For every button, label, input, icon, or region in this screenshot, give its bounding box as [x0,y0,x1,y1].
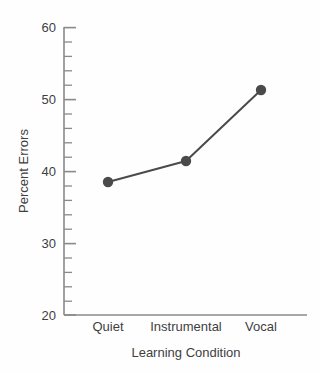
y-tick-label-40: 40 [42,164,56,179]
chart-canvas: 60 50 40 30 20 Quiet Instrumental Vocal … [0,0,320,372]
x-category-label-quiet: Quiet [92,319,123,334]
data-point-quiet[interactable] [103,177,113,187]
data-line-percent-errors [108,90,261,182]
x-category-label-instrumental: Instrumental [150,319,222,334]
y-tick-label-30: 30 [42,236,56,251]
data-point-vocal[interactable] [256,85,266,95]
y-tick-label-20: 20 [42,308,56,323]
x-axis-title: Learning Condition [131,345,240,360]
x-category-label-vocal: Vocal [245,319,277,334]
y-tick-label-60: 60 [42,20,56,35]
line-chart-figure: 60 50 40 30 20 Quiet Instrumental Vocal … [0,0,320,372]
y-axis-title: Percent Errors [16,129,31,213]
y-tick-label-50: 50 [42,92,56,107]
data-point-instrumental[interactable] [181,156,191,166]
